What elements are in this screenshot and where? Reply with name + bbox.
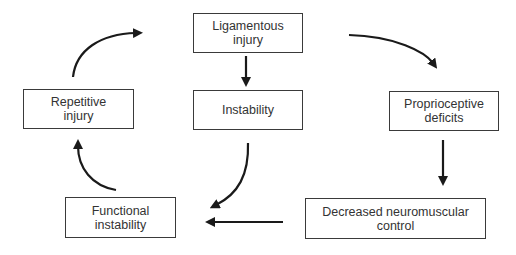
node-label-line1: Ligamentous	[212, 19, 284, 33]
node-instability: Instability	[193, 90, 303, 130]
arrow-functional-to-repetitive	[78, 146, 116, 190]
node-label-line2: injury	[51, 109, 107, 123]
node-label-line1: Functional	[92, 204, 150, 218]
node-repetitive-injury: Repetitive injury	[23, 89, 134, 129]
arrow-ligamentous-to-proprioceptive	[349, 35, 433, 63]
node-label-line2: control	[322, 219, 469, 233]
node-label-line1: Proprioceptive	[404, 97, 484, 111]
node-label-line1: Instability	[222, 103, 274, 117]
arrow-repetitive-to-ligamentous	[73, 33, 136, 77]
diagram-canvas: Ligamentous injury Instability Repetitiv…	[0, 0, 516, 255]
node-label-line1: Decreased neuromuscular	[322, 205, 469, 219]
node-ligamentous-injury: Ligamentous injury	[193, 13, 303, 53]
arrow-instability-to-functional	[216, 143, 248, 205]
node-label-line2: instability	[92, 218, 150, 232]
node-label-line2: deficits	[404, 111, 484, 125]
node-label-line1: Repetitive	[51, 95, 107, 109]
node-proprioceptive-deficits: Proprioceptive deficits	[389, 91, 499, 131]
node-label-line2: injury	[212, 33, 284, 47]
node-decreased-neuromuscular-control: Decreased neuromuscular control	[305, 198, 486, 239]
node-functional-instability: Functional instability	[65, 197, 176, 238]
